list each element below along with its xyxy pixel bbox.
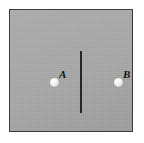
- figure-root: A B: [0, 0, 144, 143]
- marker-label-a: A: [59, 69, 66, 80]
- panel-shading: [10, 10, 132, 131]
- marker-label-b: B: [123, 69, 130, 80]
- panel-texture: [10, 10, 132, 131]
- vertical-divider-line: [80, 51, 82, 113]
- gray-panel: A B: [9, 9, 133, 132]
- marker-dot-a: [50, 78, 59, 87]
- marker-dot-b: [114, 78, 123, 87]
